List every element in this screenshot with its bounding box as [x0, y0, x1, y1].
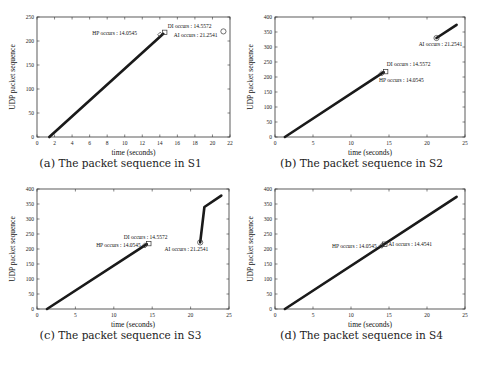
- y-tick-label: 400: [264, 186, 273, 192]
- y-tick-label: 350: [26, 201, 35, 207]
- data-line: [47, 244, 147, 309]
- y-tick-label: 350: [264, 201, 273, 207]
- y-tick-label: 100: [264, 104, 273, 110]
- y-tick-label: 300: [264, 216, 273, 222]
- panel-s3: 0510152025050100150200250300350400time (…: [0, 183, 241, 366]
- caption-text: The packet sequence in S1: [59, 157, 202, 169]
- x-tick-label: 20: [424, 312, 430, 318]
- y-tick-label: 0: [31, 134, 34, 140]
- y-axis-label: UDP packet sequence: [246, 216, 255, 282]
- y-tick-label: 0: [269, 306, 272, 312]
- x-tick-label: 14: [157, 140, 163, 146]
- x-tick-label: 22: [227, 140, 233, 146]
- caption-tag: (b): [280, 156, 296, 170]
- x-tick-label: 15: [386, 312, 392, 318]
- x-tick-label: 25: [462, 312, 468, 318]
- data-line: [49, 34, 163, 137]
- data-line: [200, 196, 221, 243]
- y-tick-label: 100: [26, 276, 35, 282]
- x-tick-label: 20: [210, 140, 216, 146]
- x-tick-label: 5: [312, 140, 315, 146]
- y-tick-label: 400: [26, 186, 35, 192]
- y-tick-label: 150: [264, 261, 273, 267]
- panel-s1: 0246810121416182022050100150200250time (…: [0, 0, 241, 183]
- y-tick-label: 250: [26, 231, 35, 237]
- caption-s2: (b) The packet sequence in S2: [241, 156, 482, 170]
- y-axis-label: UDP packet sequence: [246, 44, 255, 110]
- y-tick-label: 0: [31, 306, 34, 312]
- x-tick-label: 0: [36, 312, 39, 318]
- x-tick-label: 20: [188, 312, 194, 318]
- x-tick-label: 0: [274, 140, 277, 146]
- event-annotation: DI occurs : 14.5572: [124, 234, 168, 240]
- event-annotation: DI occurs : 14.5572: [387, 61, 431, 67]
- y-tick-label: 350: [264, 29, 273, 35]
- plot-frame: [275, 189, 465, 309]
- y-tick-label: 200: [264, 246, 273, 252]
- event-annotation: AI occurs : 21.2541: [164, 246, 208, 252]
- y-tick-label: 100: [264, 276, 273, 282]
- x-tick-label: 20: [424, 140, 430, 146]
- caption-s4: (d) The packet sequence in S4: [241, 328, 482, 342]
- y-tick-label: 50: [29, 291, 35, 297]
- x-tick-label: 18: [192, 140, 198, 146]
- y-tick-label: 200: [26, 38, 35, 44]
- caption-tag: (a): [39, 156, 55, 170]
- panel-s2: 0510152025050100150200250300350400time (…: [241, 0, 482, 183]
- x-tick-label: 10: [348, 140, 354, 146]
- caption-text: The packet sequence in S4: [300, 329, 443, 341]
- event-annotation: HP occurs : 14.0545: [96, 242, 141, 248]
- event-annotation: HP occurs : 14.0545: [92, 30, 137, 36]
- y-tick-label: 50: [29, 110, 35, 116]
- x-tick-label: 0: [36, 140, 39, 146]
- y-tick-label: 150: [26, 261, 35, 267]
- caption-text: The packet sequence in S3: [58, 329, 201, 341]
- y-tick-label: 300: [26, 216, 35, 222]
- y-tick-label: 100: [26, 86, 35, 92]
- x-tick-label: 16: [175, 140, 181, 146]
- x-tick-label: 2: [53, 140, 56, 146]
- x-tick-label: 12: [140, 140, 146, 146]
- x-tick-label: 8: [106, 140, 109, 146]
- caption-s1: (a) The packet sequence in S1: [0, 156, 241, 170]
- event-annotation: AI occurs : 21.2541: [174, 32, 218, 38]
- plot-frame: [275, 17, 465, 137]
- y-axis-label: UDP packet sequence: [8, 44, 17, 110]
- y-tick-label: 200: [264, 74, 273, 80]
- data-line: [437, 25, 457, 38]
- event-annotation: HP occurs : 14.0545: [332, 243, 377, 249]
- data-line: [285, 72, 384, 137]
- y-tick-label: 250: [264, 59, 273, 65]
- x-tick-label: 15: [386, 140, 392, 146]
- y-axis-label: UDP packet sequence: [8, 216, 17, 282]
- panel-s4: 0510152025050100150200250300350400time (…: [241, 183, 482, 366]
- x-tick-label: 5: [312, 312, 315, 318]
- caption-tag: (c): [40, 328, 55, 342]
- x-tick-label: 25: [462, 140, 468, 146]
- x-tick-label: 5: [74, 312, 77, 318]
- y-tick-label: 250: [264, 231, 273, 237]
- y-tick-label: 300: [264, 44, 273, 50]
- caption-text: The packet sequence in S2: [300, 157, 443, 169]
- x-tick-label: 25: [226, 312, 232, 318]
- y-tick-label: 250: [26, 14, 35, 20]
- x-tick-label: 15: [149, 312, 155, 318]
- caption-tag: (d): [280, 328, 296, 342]
- y-tick-label: 0: [269, 134, 272, 140]
- event-annotation: HP occurs : 14.0545: [379, 77, 424, 83]
- event-annotation: DI occurs : 14.5572: [168, 23, 212, 29]
- x-tick-label: 6: [88, 140, 91, 146]
- y-tick-label: 50: [267, 119, 273, 125]
- y-tick-label: 150: [264, 89, 273, 95]
- x-tick-label: 10: [122, 140, 128, 146]
- ai-marker-circle: [221, 29, 226, 34]
- x-tick-label: 0: [274, 312, 277, 318]
- y-tick-label: 400: [264, 14, 273, 20]
- data-line: [285, 197, 457, 309]
- x-tick-label: 4: [71, 140, 74, 146]
- y-tick-label: 50: [267, 291, 273, 297]
- event-annotation: AI occurs : 14.4541: [388, 241, 432, 247]
- x-tick-label: 10: [111, 312, 117, 318]
- x-tick-label: 10: [348, 312, 354, 318]
- y-tick-label: 150: [26, 62, 35, 68]
